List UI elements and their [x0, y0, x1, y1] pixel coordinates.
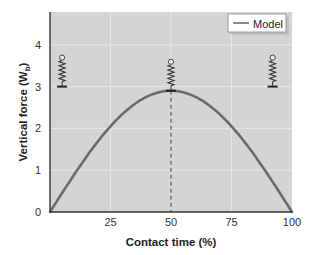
x-tick-label: 50: [165, 216, 177, 228]
y-tick-label: 1: [35, 164, 41, 176]
x-tick-label: 25: [104, 216, 116, 228]
x-tick-labels: 255075100: [104, 216, 301, 228]
x-tick-label: 100: [283, 216, 301, 228]
y-tick-label: 0: [35, 206, 41, 218]
x-tick-label: 75: [225, 216, 237, 228]
chart: 01234 255075100 Model Contact time (%) V…: [0, 0, 314, 255]
y-tick-label: 3: [35, 81, 41, 93]
legend-label: Model: [253, 18, 283, 30]
y-axis-label: Vertical force (Wb): [17, 62, 32, 161]
legend: Model: [228, 14, 289, 35]
y-tick-label: 4: [35, 39, 41, 51]
x-axis-label: Contact time (%): [126, 236, 217, 248]
y-tick-labels: 01234: [35, 39, 41, 218]
y-tick-label: 2: [35, 122, 41, 134]
